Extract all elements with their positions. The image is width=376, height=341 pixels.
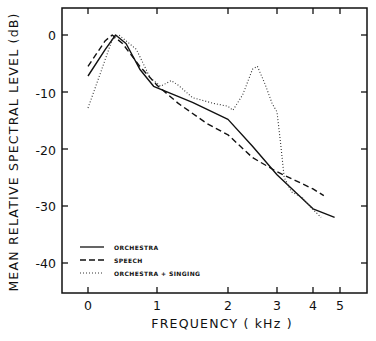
legend-swatches bbox=[80, 247, 104, 273]
x-tick-label: 4 bbox=[309, 298, 317, 313]
legend-label-speech: SPEECH bbox=[114, 257, 143, 264]
series-line-dashed bbox=[88, 35, 324, 196]
series-line-dotted bbox=[88, 35, 321, 217]
y-tick-label: -30 bbox=[36, 199, 56, 214]
y-tick-label: -10 bbox=[36, 86, 56, 101]
x-tick-label: 0 bbox=[84, 298, 92, 313]
series-lines bbox=[88, 35, 335, 217]
y-tick-label: 0 bbox=[48, 28, 56, 43]
x-axis-label: FREQUENCY ( kHz ) bbox=[151, 316, 292, 331]
plot-canvas bbox=[0, 0, 376, 341]
y-tick-label: -40 bbox=[36, 256, 56, 271]
y-axis-label: MEAN RELATIVE SPECTRAL LEVEL (dB) bbox=[6, 12, 21, 291]
x-tick-label: 3 bbox=[273, 298, 281, 313]
legend-label-orchestra-singing: ORCHESTRA + SINGING bbox=[114, 270, 200, 277]
y-tick-label: -20 bbox=[36, 143, 56, 158]
legend-label-orchestra: ORCHESTRA bbox=[114, 244, 159, 251]
x-tick-label: 5 bbox=[336, 298, 344, 313]
x-tick-label: 1 bbox=[153, 298, 161, 313]
x-tick-label: 2 bbox=[224, 298, 232, 313]
